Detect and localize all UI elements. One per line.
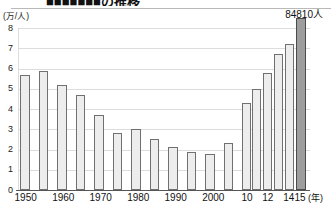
- x-tick-label-1980: 1980: [127, 192, 149, 203]
- bar-2000: [205, 154, 215, 190]
- y-tick-label-5: 5: [0, 84, 13, 93]
- x-axis-unit-label: (年): [308, 193, 323, 203]
- bar-2012: [263, 73, 272, 190]
- peak-value-callout: 84810人: [285, 9, 323, 20]
- bar-2010: [242, 103, 251, 190]
- chart-page: ■■■■■■■の推移 (万/人) 876543210 1950196019701…: [0, 0, 331, 214]
- bar-1990: [168, 147, 178, 190]
- y-tick-label-7: 7: [0, 44, 13, 53]
- x-tick-label-14: 14: [283, 192, 294, 203]
- bar-2015: [296, 18, 306, 190]
- x-tick-label-1960: 1960: [52, 192, 74, 203]
- y-axis-unit-label: (万/人): [3, 12, 29, 21]
- bar-1960: [57, 85, 67, 190]
- bar-2005: [224, 143, 234, 190]
- y-tick-label-8: 8: [0, 24, 13, 33]
- x-tick-label-15: 15: [294, 192, 305, 203]
- x-axis-baseline: [16, 190, 310, 191]
- bar-1970: [94, 115, 104, 190]
- y-axis-line: [18, 28, 19, 190]
- gridline-6: [18, 69, 310, 70]
- y-tick-label-3: 3: [0, 125, 13, 134]
- bar-1950: [20, 75, 30, 190]
- bar-2011: [252, 89, 261, 190]
- bar-1965: [76, 95, 86, 190]
- bar-2013: [274, 54, 283, 190]
- x-tick-label-1950: 1950: [15, 192, 37, 203]
- gridline-8: [18, 28, 310, 29]
- y-tick-label-6: 6: [0, 64, 13, 73]
- x-tick-label-10: 10: [241, 192, 252, 203]
- y-tick-label-4: 4: [0, 105, 13, 114]
- bar-chart-plot: (万/人) 876543210 195019601970198019902000…: [0, 0, 331, 200]
- bar-1995: [187, 152, 197, 190]
- bar-1980: [131, 129, 141, 190]
- bar-1985: [150, 139, 160, 190]
- x-tick-label-12: 12: [262, 192, 273, 203]
- gridline-7: [18, 48, 310, 49]
- bar-1975: [113, 133, 123, 190]
- x-tick-label-2000: 2000: [202, 192, 224, 203]
- y-tick-label-1: 1: [0, 165, 13, 174]
- bar-1955: [39, 71, 49, 190]
- x-tick-label-1990: 1990: [165, 192, 187, 203]
- bar-2014: [285, 44, 294, 190]
- y-tick-label-2: 2: [0, 145, 13, 154]
- y-tick-label-0: 0: [0, 186, 13, 195]
- x-tick-label-1970: 1970: [90, 192, 112, 203]
